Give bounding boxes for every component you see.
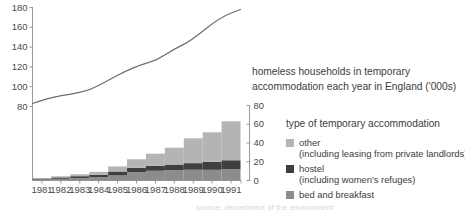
bar-segment [70, 178, 89, 181]
legend-item-other: other (including leasing from private la… [286, 137, 465, 159]
bar-segment [70, 176, 89, 178]
bar-segment [108, 172, 127, 176]
bar-segment [165, 170, 184, 180]
bar-segment [127, 168, 146, 172]
right-axis [247, 106, 251, 181]
left-axis-tick-140: 140 [0, 42, 28, 52]
trend-line [33, 9, 241, 103]
total-homeless-line [33, 9, 241, 103]
bar-segment [51, 176, 70, 177]
bar-segment [127, 172, 146, 180]
bar-segment [222, 160, 241, 169]
bar-segment [165, 165, 184, 171]
right-axis-tick-40: 40 [254, 138, 265, 148]
bar-segment [184, 163, 203, 170]
legend-swatch-bed-and-breakfast [286, 191, 294, 199]
right-axis-tick-0: 0 [254, 176, 259, 186]
right-axis-tick-20: 20 [254, 157, 265, 167]
legend-swatch-other [286, 139, 294, 147]
bar-segment [222, 121, 241, 160]
chart-footnote: source: department of the environment [196, 203, 436, 210]
legend-sublabel-hostel: (including women's refuges) [299, 174, 465, 185]
legend-item-hostel: hostel (including women's refuges) [286, 163, 465, 185]
chart-figure: 8010012014016018002040608019811982198319… [0, 0, 465, 212]
chart-title-line-1: homeless households in temporary [252, 64, 465, 79]
bar-segment [51, 179, 70, 181]
chart-title-line-2: accommodation each year in England ('000… [252, 79, 465, 94]
bar-segment [89, 177, 108, 180]
bar-segment [146, 166, 165, 171]
bar-segment [89, 175, 108, 177]
right-axis-tick-80: 80 [254, 101, 265, 111]
chart-title: homeless households in temporary accommo… [252, 64, 465, 94]
left-axis-tick-120: 120 [0, 62, 28, 72]
legend-heading: type of temporary accommodation [286, 118, 440, 129]
bar-segment [127, 159, 146, 167]
right-axis-tick-60: 60 [254, 119, 265, 129]
bar-segment [89, 172, 108, 175]
left-axis-tick-160: 160 [0, 22, 28, 32]
bar-segment [33, 180, 52, 181]
bar-segment [108, 166, 127, 171]
bar-segment [33, 179, 52, 180]
chart-legend: other (including leasing from private la… [286, 137, 465, 204]
stacked-bars [33, 121, 241, 180]
bar-segment [51, 177, 70, 178]
x-axis-tick-1991: 1991 [217, 185, 245, 195]
bar-segment [203, 132, 222, 162]
bar-segment [33, 178, 52, 179]
bar-segment [203, 162, 222, 170]
left-axis-tick-80: 80 [0, 102, 28, 112]
legend-label-other: other [299, 137, 465, 148]
left-axis-tick-100: 100 [0, 82, 28, 92]
legend-sublabel-other: (including leasing from private landlord… [299, 148, 465, 159]
legend-label-hostel: hostel [299, 163, 465, 174]
left-axis [30, 7, 33, 181]
bar-segment [108, 175, 127, 180]
bar-segment [203, 170, 222, 181]
legend-label-bed-and-breakfast: bed and breakfast [299, 189, 465, 200]
bar-segment [70, 174, 89, 176]
bar-segment [146, 171, 165, 181]
bar-segment [184, 170, 203, 181]
legend-swatch-hostel [286, 165, 294, 173]
bar-segment [165, 148, 184, 165]
bar-segment [222, 169, 241, 180]
bar-segment [146, 154, 165, 166]
legend-item-bed-and-breakfast: bed and breakfast [286, 189, 465, 200]
left-axis-tick-180: 180 [0, 3, 28, 13]
bar-segment [184, 138, 203, 163]
